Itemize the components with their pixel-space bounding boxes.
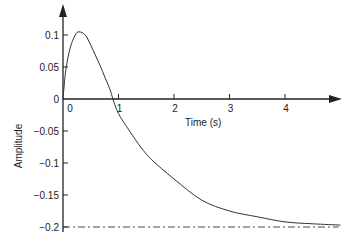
y-axis-arrow-icon — [59, 4, 67, 17]
x-ticks: 01234 — [67, 94, 289, 114]
y-axis-label: Amplitude — [13, 123, 24, 168]
y-tick-label: −0.2 — [39, 222, 59, 233]
x-axis-arrow-icon — [329, 95, 342, 103]
x-tick-label: 3 — [228, 103, 234, 114]
y-tick-label: −0.15 — [34, 190, 60, 201]
y-tick-label: 0.1 — [45, 30, 59, 41]
chart: 0.10.050−0.05−0.1−0.15−0.2 01234 Time (s… — [0, 0, 356, 241]
y-tick-label: −0.05 — [34, 126, 60, 137]
y-tick-label: 0 — [53, 94, 59, 105]
response-curve — [63, 32, 341, 225]
y-tick-label: −0.1 — [39, 158, 59, 169]
x-tick-label: 0 — [67, 103, 73, 114]
x-axis-label: Time (s) — [185, 117, 221, 128]
y-tick-label: 0.05 — [40, 62, 60, 73]
x-tick-label: 4 — [283, 103, 289, 114]
x-tick-label: 2 — [172, 103, 178, 114]
